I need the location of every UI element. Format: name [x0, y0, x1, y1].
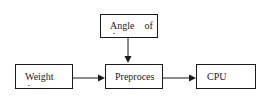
arrow-weight-to-preproces [73, 75, 105, 82]
arrow-preproces-to-cpu [163, 75, 196, 82]
arrow-angle-to-preproces [125, 38, 132, 63]
edges-layer [0, 0, 268, 99]
